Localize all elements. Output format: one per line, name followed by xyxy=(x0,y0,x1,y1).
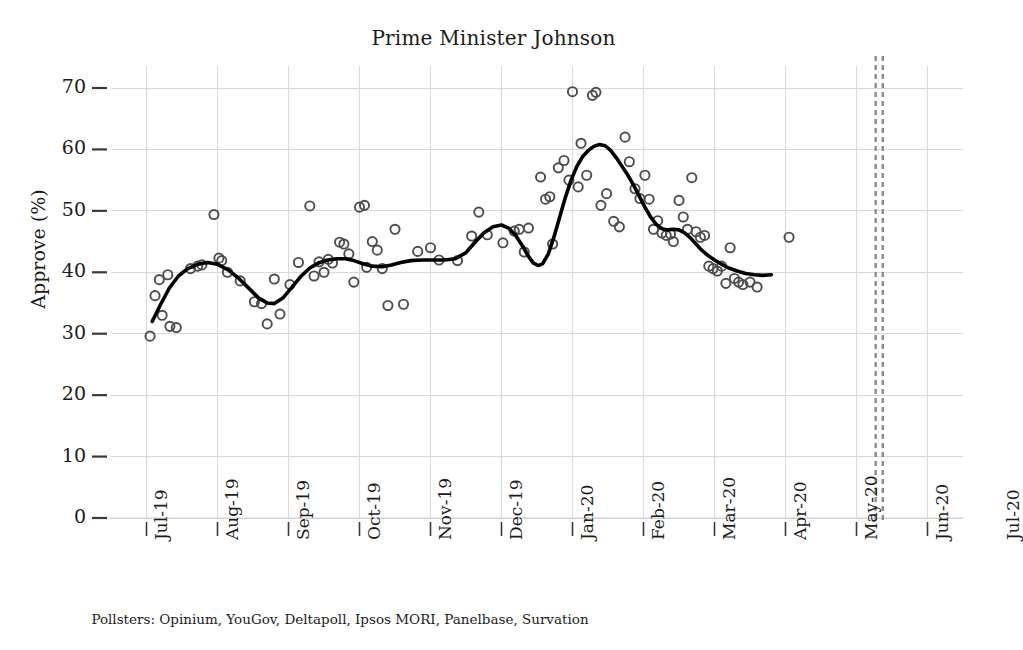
x-tick-label: Apr-20 xyxy=(792,481,809,540)
x-tick-label: Aug-19 xyxy=(224,479,241,540)
y-tick-label: 60 xyxy=(36,138,86,157)
chart-title: Prime Minister Johnson xyxy=(0,26,987,50)
y-axis-label: Approve (%) xyxy=(27,149,49,349)
trend-line xyxy=(152,145,771,322)
chart-caption: Pollsters: Opinium, YouGov, Deltapoll, I… xyxy=(0,611,680,627)
annotation-vlines xyxy=(876,56,883,524)
axis-tickmarks xyxy=(92,88,987,536)
y-tick-label: 10 xyxy=(36,446,86,465)
y-tick-label: 40 xyxy=(36,261,86,280)
x-tick-label: Mar-20 xyxy=(721,477,738,540)
x-tick-label: Oct-19 xyxy=(366,482,383,540)
x-tick-label: May-20 xyxy=(863,475,880,540)
y-tick-label: 20 xyxy=(36,384,86,403)
y-tick-label: 0 xyxy=(36,507,86,526)
gridlines xyxy=(99,66,987,518)
y-tick-label: 30 xyxy=(36,323,86,342)
x-tick-label: Jul-20 xyxy=(1005,489,1022,540)
x-tick-label: Jan-20 xyxy=(579,485,596,540)
x-tick-label: Jul-19 xyxy=(153,489,170,540)
x-tick-label: Feb-20 xyxy=(650,481,667,540)
y-tick-label: 50 xyxy=(36,200,86,219)
x-tick-label: Nov-19 xyxy=(437,478,454,540)
scatter-points xyxy=(145,87,793,341)
y-tick-label: 70 xyxy=(36,77,86,96)
x-tick-label: Jun-20 xyxy=(934,484,951,540)
x-tick-label: Sep-19 xyxy=(295,480,312,540)
x-tick-label: Dec-19 xyxy=(508,479,525,540)
